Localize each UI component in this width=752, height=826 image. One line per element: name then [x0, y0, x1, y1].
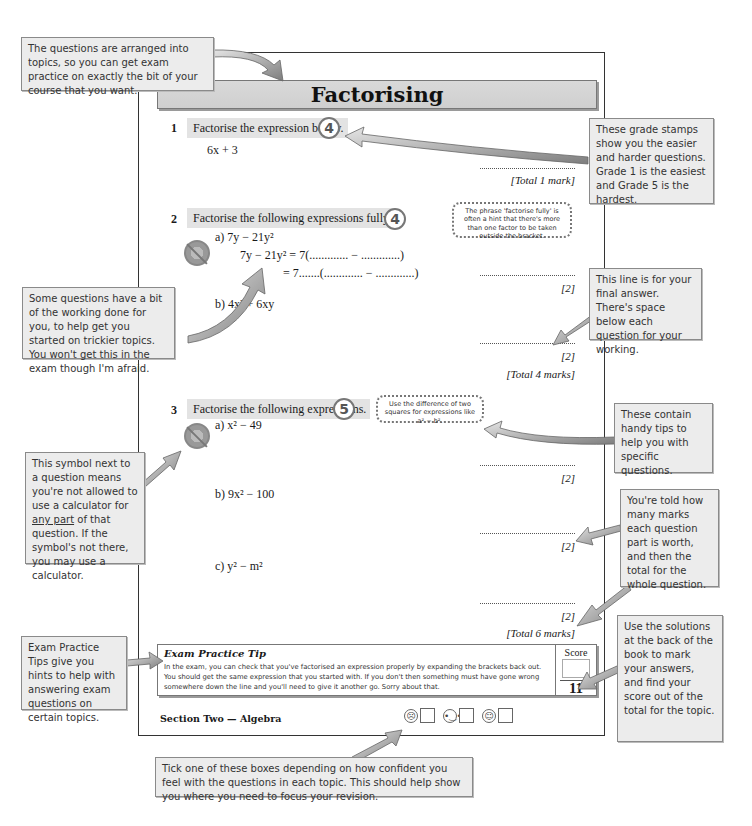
- answer-line[interactable]: [480, 465, 575, 466]
- callout-grade-stamps: These grade stamps show you the easier a…: [589, 118, 714, 204]
- section-footer: Section Two — Algebra: [160, 713, 281, 724]
- question-text: Factorise the following expressions full…: [187, 208, 395, 228]
- answer-line[interactable]: [480, 343, 575, 344]
- exam-practice-tip: Exam Practice Tip In the exam, you can c…: [157, 644, 597, 696]
- topic-title-bar: Factorising: [157, 80, 597, 109]
- confidence-happy: ☺: [482, 708, 513, 723]
- callout-working: Some questions have a bit of the working…: [22, 287, 175, 359]
- confidence-checkbox-happy[interactable]: [498, 708, 513, 723]
- answer-line[interactable]: [480, 533, 575, 534]
- answer-line[interactable]: [480, 168, 575, 169]
- hint-box: The phrase 'factorise fully' is often a …: [452, 202, 572, 238]
- callout-confidence: Tick one of these boxes depending on how…: [155, 757, 473, 797]
- hint-box: Use the difference of two squares for ex…: [376, 395, 484, 423]
- total-marks: [Total 4 marks]: [470, 368, 575, 380]
- callout-final-line: This line is for your final answer. Ther…: [589, 268, 702, 340]
- question-number: 3: [171, 403, 177, 418]
- part-marks: [2]: [480, 350, 575, 362]
- callout-tips: These contain handy tips to help you wit…: [614, 403, 713, 473]
- part-marks: [2]: [480, 610, 575, 622]
- confidence-checkbox-neutral[interactable]: [459, 708, 474, 723]
- question-number: 1: [171, 121, 177, 136]
- grade-stamp-icon: 5: [333, 398, 355, 420]
- score-input[interactable]: [562, 659, 590, 678]
- score-total: 11: [560, 680, 592, 695]
- tip-title: Exam Practice Tip: [164, 648, 266, 659]
- score-panel: Score 11: [555, 645, 596, 695]
- grade-stamp-icon: 4: [318, 117, 340, 139]
- confidence-neutral: •‿•: [443, 708, 474, 723]
- grade-stamp-icon: 4: [384, 208, 406, 230]
- callout-topics: The questions are arranged into topics, …: [21, 37, 214, 91]
- part-a-expression: a) x² − 49: [215, 418, 262, 433]
- page-title: Factorising: [311, 82, 444, 107]
- callout-exam-tips: Exam Practice Tips give you hints to hel…: [21, 636, 127, 710]
- total-marks: [Total 1 mark]: [480, 174, 575, 186]
- part-c-expression: c) y² − m²: [215, 559, 263, 574]
- working-line-2: = 7.......(............. − .............…: [283, 266, 419, 281]
- score-label: Score: [556, 647, 596, 658]
- question-number: 2: [171, 212, 177, 227]
- part-b-expression: b) 4x² + 6xy: [215, 297, 274, 312]
- neutral-face-icon: •‿•: [443, 709, 457, 723]
- working-line-1: 7y − 21y² = 7(............. − ..........…: [240, 248, 404, 263]
- part-marks: [2]: [480, 472, 575, 484]
- answer-line[interactable]: [480, 275, 575, 276]
- tip-body: In the exam, you can check that you've f…: [164, 662, 544, 692]
- callout-calculator: This symbol next to a question means you…: [25, 452, 145, 564]
- happy-face-icon: ☺: [482, 709, 496, 723]
- part-marks: [2]: [480, 282, 575, 294]
- confidence-sad: ☹: [404, 708, 435, 723]
- part-b-expression: b) 9x² − 100: [215, 487, 274, 502]
- total-marks: [Total 6 marks]: [470, 627, 575, 639]
- no-calculator-icon: [184, 240, 210, 266]
- part-marks: [2]: [480, 540, 575, 552]
- callout-solutions: Use the solutions at the back of the boo…: [617, 615, 723, 742]
- no-calculator-icon: [184, 423, 210, 449]
- confidence-checkbox-sad[interactable]: [420, 708, 435, 723]
- answer-line[interactable]: [480, 603, 575, 604]
- part-a-expression: a) 7y − 21y²: [215, 230, 274, 245]
- sad-face-icon: ☹: [404, 709, 418, 723]
- callout-marks: You're told how many marks each question…: [620, 489, 719, 587]
- question-expression: 6x + 3: [207, 143, 238, 158]
